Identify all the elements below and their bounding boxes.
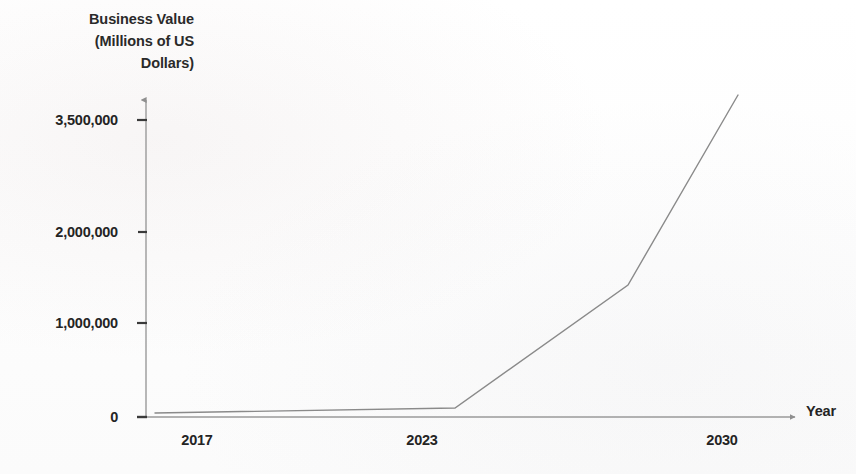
business-value-line-chart: Business Value (Millions of US Dollars) …	[0, 0, 856, 474]
plot-area	[0, 0, 856, 474]
business-value-data-line	[155, 95, 738, 413]
